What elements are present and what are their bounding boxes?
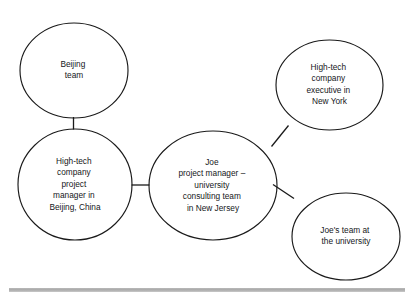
node-line: the university — [322, 236, 372, 246]
node-line: team — [65, 70, 84, 80]
node-line: company — [57, 167, 92, 177]
node-line: project manager – — [178, 168, 245, 178]
node-new-york-executive[interactable]: High-tech company executive in New York — [276, 40, 383, 130]
node-new-york-executive-label: High-tech company executive in New York — [306, 62, 352, 107]
node-line: consulting team — [183, 191, 241, 201]
node-line: Joe's team at — [320, 225, 370, 235]
node-joes-university-team-label: Joe's team at the university — [320, 225, 371, 247]
node-line: manager in — [53, 190, 95, 200]
node-line: university — [194, 180, 230, 190]
node-beijing-team[interactable]: Beijing team — [20, 23, 128, 118]
node-line: in New Jersey — [187, 203, 240, 213]
node-line: New York — [312, 96, 348, 106]
node-joes-university-team[interactable]: Joe's team at the university — [292, 193, 400, 280]
network-diagram: Beijing team High-tech company project m… — [0, 0, 418, 299]
node-line: High-tech — [56, 156, 92, 166]
node-line: Beijing — [60, 59, 85, 69]
node-line: company — [312, 73, 347, 83]
node-line: High-tech — [311, 62, 347, 72]
node-line: project — [61, 179, 87, 189]
node-line: Beijing, China — [49, 202, 101, 212]
node-line: executive in — [306, 85, 350, 95]
node-beijing-project-manager[interactable]: High-tech company project manager in Bei… — [18, 129, 132, 240]
footer-divider — [9, 288, 405, 292]
edge-joe-to-new-york-executive — [272, 126, 289, 147]
node-line: Joe — [205, 157, 219, 167]
node-joe-project-manager[interactable]: Joe project manager – university consult… — [149, 131, 277, 240]
